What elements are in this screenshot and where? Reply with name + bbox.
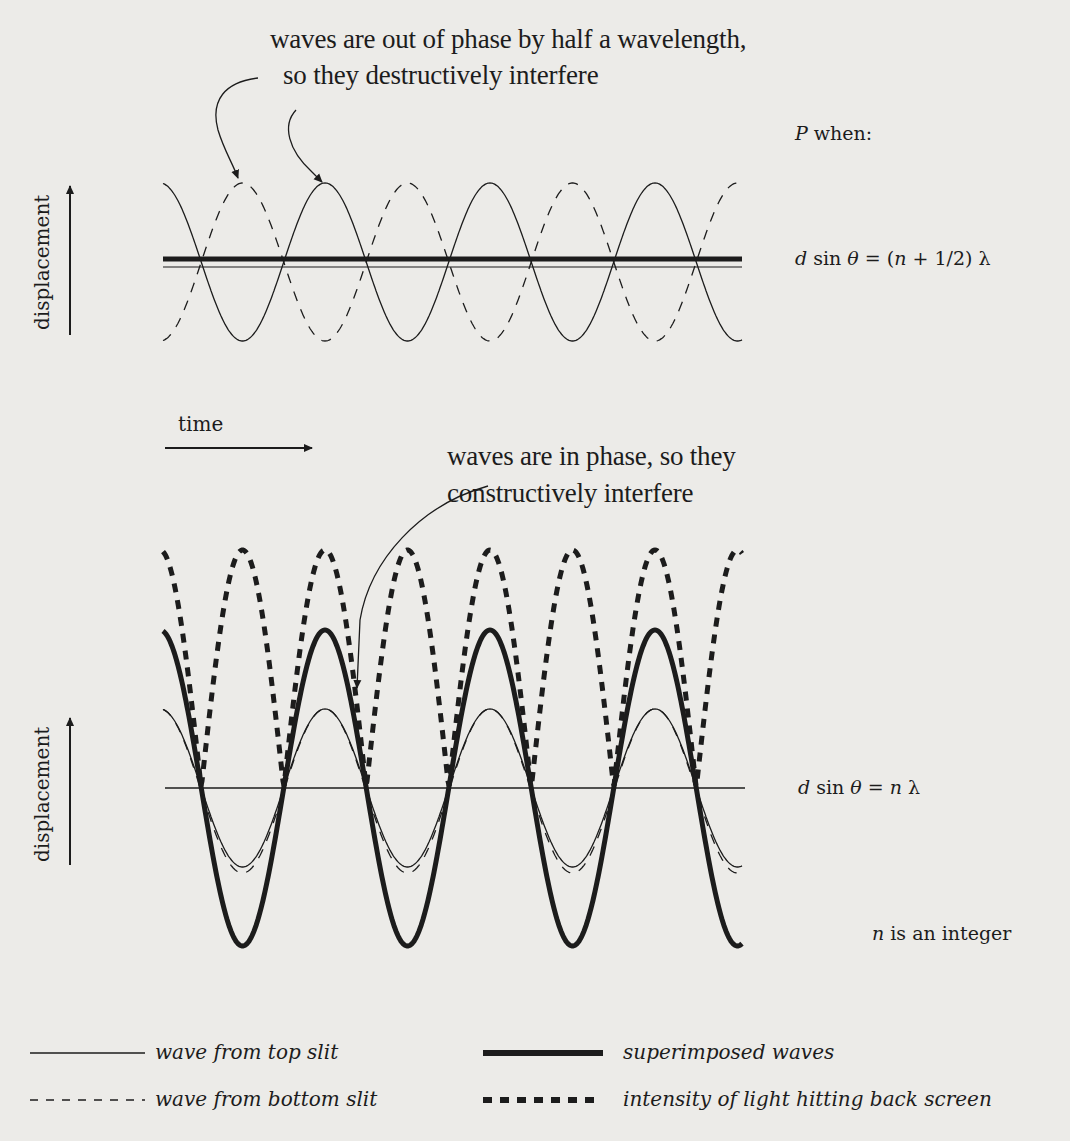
- intensity-curve: [163, 550, 742, 786]
- top-wave-from-bottom-slit: [163, 183, 742, 341]
- destructive-arrow-2: [289, 110, 322, 182]
- interference-diagram: [0, 0, 1070, 1141]
- destructive-arrow-1: [216, 78, 258, 178]
- bottom-wave-group: [163, 550, 742, 946]
- top-wave-group: [163, 183, 742, 341]
- top-wave-from-top-slit: [163, 183, 742, 341]
